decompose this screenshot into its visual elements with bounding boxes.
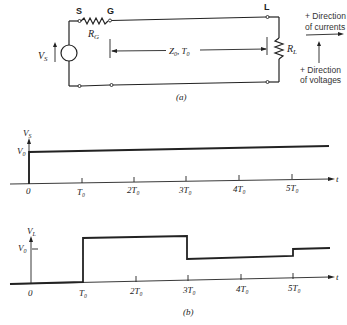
voltage-arrow-icon (317, 41, 321, 46)
rl-label: RL (286, 43, 297, 56)
vl-graph: t VL V0 0 T₀ 2T₀ 3T₀ 4T₀ 5T₀ (b) (10, 226, 339, 317)
vl-tick-0: 0 (28, 288, 33, 298)
vl-tick-4: 4T₀ (236, 284, 249, 294)
vs-tick-0: 0 (26, 186, 31, 196)
vs-graph: t VS V0 0 T₀ 2T₀ 3T₀ 4T₀ 5T₀ (10, 128, 339, 197)
vl-tick-5: 5T₀ (288, 283, 301, 293)
vs-tick-3: 3T₀ (178, 185, 192, 195)
vs-v0-label: V0 (17, 146, 26, 157)
node-g-terminal (109, 19, 112, 22)
current-direction-note-1: + Direction (305, 11, 346, 21)
vs-tick-5: 5T₀ (286, 183, 299, 193)
dimension-arrow-left-icon (111, 49, 117, 53)
current-direction-note-2: of currents (305, 22, 345, 32)
circuit-diagram: S G L RG VS RL Z0, T0 + Direction of cur… (38, 2, 346, 102)
vs-waveform (29, 146, 329, 184)
rg-label: RG (87, 28, 99, 41)
vl-tick-3: 3T₀ (182, 285, 196, 295)
vs-tick-2: 2T₀ (127, 185, 140, 195)
voltage-direction-note-1: + Direction (300, 65, 341, 75)
caption-a: (a) (176, 92, 187, 102)
current-arrow-icon (338, 32, 344, 36)
line-params-label: Z0, T0 (169, 46, 190, 57)
node-s-terminal (78, 20, 81, 23)
resistor-rg-icon (81, 18, 108, 24)
figure: S G L RG VS RL Z0, T0 + Direction of cur… (0, 0, 347, 325)
node-l-terminal (266, 16, 269, 19)
vl-tick-1: T₀ (79, 288, 87, 298)
vs-tick-1: T₀ (77, 187, 85, 197)
vs-y-label: VS (23, 128, 32, 139)
resistor-rl-icon (275, 38, 283, 59)
vl-t-label: t (336, 272, 339, 282)
vs-arrow-icon (53, 42, 57, 47)
caption-b: (b) (183, 307, 194, 317)
vs-label: VS (38, 50, 48, 63)
vs-tick-4: 4T₀ (233, 184, 246, 194)
node-g-label: G (107, 6, 114, 16)
voltage-source-icon (61, 45, 77, 61)
vl-y-label: VL (27, 226, 37, 237)
voltage-direction-note-2: of voltages (300, 75, 341, 85)
vl-t-axis-arrow-icon (328, 275, 335, 279)
node-l-label: L (264, 2, 270, 12)
node-s-label: S (76, 6, 82, 16)
vl-tick-2: 2T₀ (130, 286, 143, 296)
vl-v0-label: V0 (18, 243, 27, 254)
vs-t-label: t (336, 174, 339, 184)
dimension-arrow-right-icon (261, 47, 267, 51)
vl-waveform (10, 236, 330, 284)
vs-t-axis-arrow-icon (328, 177, 335, 181)
